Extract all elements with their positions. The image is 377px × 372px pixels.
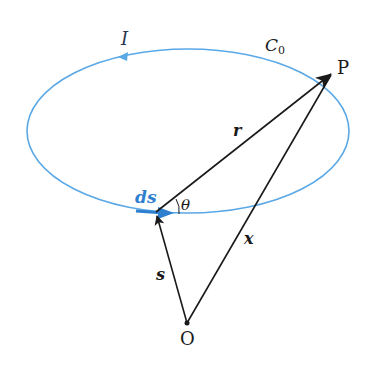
theta-arc bbox=[176, 199, 179, 214]
origin-label: O bbox=[180, 330, 195, 348]
ds-label: ds bbox=[135, 189, 156, 206]
field-point-label: P bbox=[337, 59, 349, 77]
diagram-canvas: I C0 P r x s ds θ O bbox=[0, 0, 377, 372]
theta-label: θ bbox=[181, 198, 190, 213]
vector-s-label: s bbox=[156, 267, 165, 283]
loop-label: C0 bbox=[265, 37, 285, 56]
diagram-graphics bbox=[0, 0, 377, 372]
vector-x-label: x bbox=[244, 231, 254, 247]
current-direction-arrow-icon bbox=[118, 52, 128, 61]
current-loop bbox=[27, 49, 349, 213]
loop-label-main: C bbox=[265, 35, 278, 55]
vector-x bbox=[187, 75, 331, 323]
current-label: I bbox=[121, 30, 128, 48]
vector-r bbox=[156, 74, 331, 212]
origin-dot bbox=[185, 321, 190, 326]
loop-label-subscript: 0 bbox=[278, 44, 285, 57]
vector-r-label: r bbox=[233, 123, 241, 139]
